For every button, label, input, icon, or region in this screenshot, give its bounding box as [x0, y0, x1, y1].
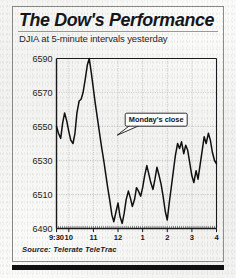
x-tick-label: 3 [190, 233, 194, 242]
x-tick-label: 12 [114, 233, 122, 242]
mondays-close-callout: Monday's close [117, 113, 187, 135]
chart-svg: 659065706550653065106490 9:301011121234 … [0, 0, 236, 278]
djia-series-line [57, 59, 217, 224]
x-tick-label: 11 [89, 233, 98, 242]
chart-gridlines [57, 59, 217, 229]
x-tick-label: 1 [141, 233, 146, 242]
chart-plot-frame [57, 59, 217, 229]
x-tick-label: 10 [65, 233, 73, 242]
x-tick-label: 9:30 [49, 233, 64, 242]
source-credit: Source: Telerate TeleTrac [22, 245, 117, 254]
djia-line [57, 59, 217, 224]
line-chart: 659065706550653065106490 9:301011121234 … [0, 0, 236, 278]
callout-pointer [117, 125, 140, 135]
x-tick-label: 2 [165, 233, 169, 242]
callout-text: Monday's close [129, 115, 184, 124]
y-axis-tick-labels: 659065706550653065106490 [32, 54, 52, 234]
bottom-rule-bar [12, 265, 224, 270]
y-tick-label: 6590 [32, 54, 52, 64]
x-axis-tick-labels: 9:301011121234 [49, 233, 219, 242]
x-tick-label: 4 [214, 233, 219, 242]
y-tick-label: 6570 [32, 88, 52, 98]
y-tick-label: 6530 [32, 156, 52, 166]
y-tick-label: 6510 [32, 190, 52, 200]
y-tick-label: 6550 [32, 122, 52, 132]
